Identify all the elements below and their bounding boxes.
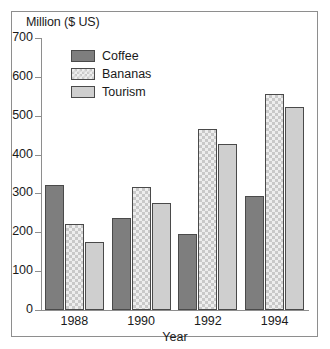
bar-tourism-1992 — [218, 144, 237, 310]
x-axis-label-1988: 1988 — [60, 314, 88, 328]
legend-label-tourism: Tourism — [102, 86, 146, 99]
legend-item-coffee: Coffee — [71, 48, 151, 64]
y-axis-tick-label: 400 — [1, 148, 33, 161]
bar-coffee-1990 — [112, 218, 131, 310]
bar-tourism-1994 — [285, 107, 304, 310]
y-axis-tick-label: 200 — [1, 225, 33, 238]
x-axis-title: Year — [162, 330, 187, 344]
y-axis-tick-label: 500 — [1, 109, 33, 122]
legend-item-bananas: Bananas — [71, 66, 151, 82]
y-axis-tick-label: 600 — [1, 70, 33, 83]
legend-label-bananas: Bananas — [102, 68, 151, 81]
bar-bananas-1990 — [132, 187, 151, 310]
bar-coffee-1988 — [45, 185, 64, 310]
y-axis-tick-label: 300 — [1, 186, 33, 199]
y-axis-tick-label: 100 — [1, 264, 33, 277]
legend-item-tourism: Tourism — [71, 84, 151, 100]
y-axis-tick — [35, 310, 41, 311]
bar-bananas-1994 — [265, 94, 284, 310]
y-axis-tick-label-wrap: 300 — [0, 186, 33, 199]
y-axis-tick-label: 700 — [1, 31, 33, 44]
bar-bananas-1992 — [198, 129, 217, 310]
y-axis-title: Million ($ US) — [26, 15, 100, 29]
x-axis-line — [41, 310, 309, 311]
legend-swatch-coffee-icon — [71, 50, 95, 62]
y-axis-tick-label-wrap: 600 — [0, 70, 33, 83]
chart-page: Million ($ US) 7006005004003002001000 19… — [0, 0, 330, 349]
legend-swatch-tourism-icon — [71, 86, 95, 98]
y-axis-tick-label-wrap: 500 — [0, 109, 33, 122]
bar-coffee-1994 — [245, 196, 264, 310]
x-axis-label-1990: 1990 — [127, 314, 155, 328]
legend-swatch-bananas-icon — [71, 68, 95, 80]
y-axis-tick-label-wrap: 100 — [0, 264, 33, 277]
bar-tourism-1990 — [152, 203, 171, 310]
y-axis-tick-label-wrap: 0 — [0, 303, 33, 316]
bar-tourism-1988 — [85, 242, 104, 310]
legend-label-coffee: Coffee — [102, 50, 139, 63]
y-axis-tick-label-wrap: 700 — [0, 31, 33, 44]
x-axis-label-1992: 1992 — [194, 314, 222, 328]
y-axis-tick-label-wrap: 200 — [0, 225, 33, 238]
bar-bananas-1988 — [65, 224, 84, 310]
x-axis-label-1994: 1994 — [261, 314, 289, 328]
y-axis-tick-label-wrap: 400 — [0, 148, 33, 161]
y-axis-tick-label: 0 — [1, 303, 33, 316]
bar-coffee-1992 — [178, 234, 197, 310]
chart-legend: Coffee Bananas Tourism — [71, 48, 151, 102]
